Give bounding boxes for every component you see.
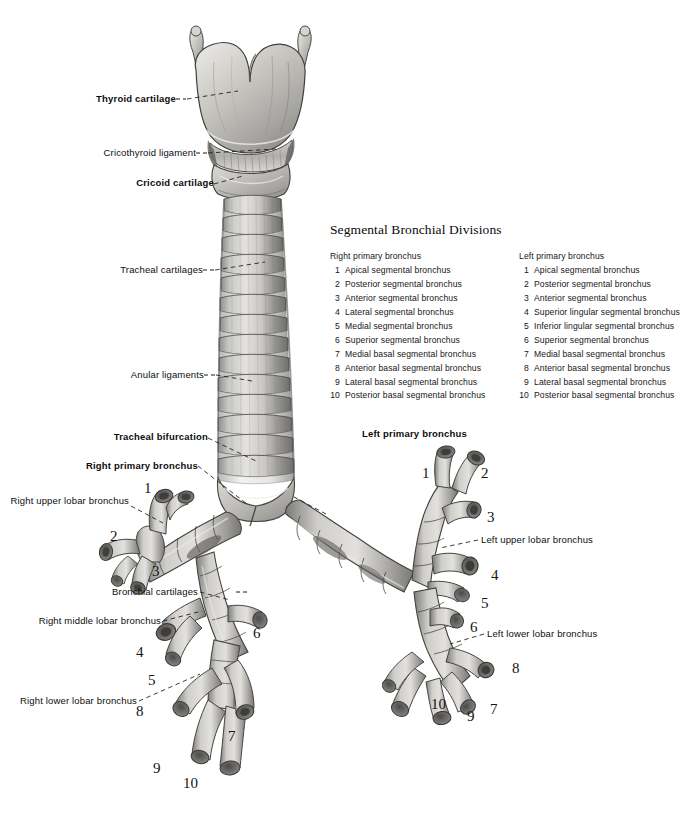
- legend-item-label: Posterior basal segmental bronchus: [534, 389, 675, 403]
- legend-item: 8Anterior basal segmental bronchus: [330, 362, 503, 376]
- legend-item-label: Anterior basal segmental bronchus: [345, 362, 481, 376]
- legend-item-index: 9: [519, 376, 534, 390]
- legend-item-label: Superior segmental bronchus: [534, 334, 649, 348]
- legend-item-label: Anterior segmental bronchus: [345, 292, 458, 306]
- numeric-callout-left: 1: [422, 466, 430, 481]
- legend-item-index: 7: [519, 348, 534, 362]
- legend-item-index: 2: [519, 278, 534, 292]
- legend-item: 10Posterior basal segmental bronchus: [330, 389, 503, 403]
- legend-list-left: 1Apical segmental bronchus2Posterior seg…: [519, 264, 692, 403]
- numeric-callout-left: 6: [470, 620, 478, 635]
- legend-item-label: Lateral basal segmental bronchus: [534, 376, 666, 390]
- segmental-bronchial-divisions-legend: Segmental Bronchial Divisions Right prim…: [330, 222, 692, 403]
- numeric-callout-right: 4: [136, 645, 144, 660]
- legend-item: 1Apical segmental bronchus: [330, 264, 503, 278]
- legend-item-label: Posterior basal segmental bronchus: [345, 389, 486, 403]
- legend-item-index: 6: [519, 334, 534, 348]
- label-bronchial-cartilages: Bronchial cartilages: [10, 587, 198, 597]
- legend-item-index: 8: [330, 362, 345, 376]
- numeric-callout-left: 9: [467, 709, 475, 724]
- legend-item: 8Anterior basal segmental bronchus: [519, 362, 692, 376]
- numeric-callout-right: 6: [253, 626, 261, 641]
- numeric-callout-right: 5: [148, 673, 156, 688]
- label-left-lower-lobar-bronchus: Left lower lobar bronchus: [487, 629, 597, 639]
- legend-item-label: Superior lingular segmental bronchus: [534, 306, 680, 320]
- legend-item-label: Inferior lingular segmental bronchus: [534, 320, 674, 334]
- numeric-callout-right: 2: [110, 529, 118, 544]
- legend-item: 2Posterior segmental bronchus: [519, 278, 692, 292]
- numeric-callout-right: 8: [136, 704, 144, 719]
- label-cricothyroid-ligament: Cricothyroid ligament: [10, 148, 196, 158]
- legend-item-label: Apical segmental bronchus: [345, 264, 451, 278]
- legend-item-index: 10: [330, 389, 345, 403]
- legend-item-index: 4: [330, 306, 345, 320]
- trachea-art: [218, 195, 294, 484]
- legend-item-label: Posterior segmental bronchus: [534, 278, 651, 292]
- legend-item-label: Anterior segmental bronchus: [534, 292, 647, 306]
- legend-item-label: Lateral segmental bronchus: [345, 306, 454, 320]
- numeric-callout-left: 2: [481, 466, 489, 481]
- legend-item: 4Superior lingular segmental bronchus: [519, 306, 692, 320]
- legend-item: 7Medial basal segmental bronchus: [330, 348, 503, 362]
- legend-item-index: 3: [330, 292, 345, 306]
- legend-item-index: 3: [519, 292, 534, 306]
- label-thyroid-cartilage: Thyroid cartilage: [10, 94, 176, 104]
- legend-column-right: Right primary bronchus 1Apical segmental…: [330, 251, 503, 403]
- legend-item: 9Lateral basal segmental bronchus: [519, 376, 692, 390]
- legend-item: 10Posterior basal segmental bronchus: [519, 389, 692, 403]
- trachea-bronchial-tree-illustration: [0, 0, 699, 815]
- legend-item-index: 6: [330, 334, 345, 348]
- label-tracheal-bifurcation: Tracheal bifurcation: [10, 432, 208, 442]
- label-right-lower-lobar-bronchus: Right lower lobar bronchus: [0, 696, 137, 706]
- label-tracheal-cartilages: Tracheal cartilages: [10, 265, 203, 275]
- legend-item-index: 5: [519, 320, 534, 334]
- anatomical-figure: Thyroid cartilage Cricothyroid ligament …: [0, 0, 699, 815]
- legend-item: 4Lateral segmental bronchus: [330, 306, 503, 320]
- legend-item-label: Lateral basal segmental bronchus: [345, 376, 477, 390]
- numeric-callout-right: 3: [152, 564, 160, 579]
- legend-item: 9Lateral basal segmental bronchus: [330, 376, 503, 390]
- numeric-callout-left: 3: [487, 510, 495, 525]
- legend-column-left: Left primary bronchus 1Apical segmental …: [519, 251, 692, 403]
- numeric-callout-right: 7: [228, 729, 236, 744]
- legend-heading-left-primary-bronchus: Left primary bronchus: [519, 251, 692, 261]
- legend-title: Segmental Bronchial Divisions: [330, 222, 692, 238]
- legend-item: 5Medial segmental bronchus: [330, 320, 503, 334]
- legend-heading-right-primary-bronchus: Right primary bronchus: [330, 251, 503, 261]
- legend-item: 7Medial basal segmental bronchus: [519, 348, 692, 362]
- legend-item-label: Anterior basal segmental bronchus: [534, 362, 670, 376]
- legend-item: 6Superior segmental bronchus: [519, 334, 692, 348]
- legend-item-label: Medial segmental bronchus: [345, 320, 453, 334]
- legend-item: 2Posterior segmental bronchus: [330, 278, 503, 292]
- legend-item: 6Superior segmental bronchus: [330, 334, 503, 348]
- legend-columns: Right primary bronchus 1Apical segmental…: [330, 251, 692, 403]
- legend-item-label: Superior segmental bronchus: [345, 334, 460, 348]
- legend-item-index: 8: [519, 362, 534, 376]
- legend-item-index: 1: [519, 264, 534, 278]
- legend-item-index: 7: [330, 348, 345, 362]
- numeric-callout-right: 10: [183, 776, 198, 791]
- label-anular-ligaments: Anular ligaments: [10, 370, 204, 380]
- label-left-primary-bronchus: Left primary bronchus: [362, 429, 467, 439]
- legend-item-label: Medial basal segmental bronchus: [534, 348, 665, 362]
- legend-item: 1Apical segmental bronchus: [519, 264, 692, 278]
- numeric-callout-right: 1: [144, 481, 152, 496]
- thyroid-cartilage-art: [190, 26, 311, 153]
- legend-item-index: 4: [519, 306, 534, 320]
- legend-item: 3Anterior segmental bronchus: [330, 292, 503, 306]
- legend-item: 5Inferior lingular segmental bronchus: [519, 320, 692, 334]
- legend-item-label: Posterior segmental bronchus: [345, 278, 462, 292]
- legend-list-right: 1Apical segmental bronchus2Posterior seg…: [330, 264, 503, 403]
- numeric-callout-left: 5: [481, 596, 489, 611]
- legend-item-index: 10: [519, 389, 534, 403]
- numeric-callout-left: 10: [431, 697, 446, 712]
- numeric-callout-left: 8: [512, 661, 520, 676]
- legend-item-index: 1: [330, 264, 345, 278]
- label-right-primary-bronchus: Right primary bronchus: [10, 461, 198, 471]
- legend-item-index: 9: [330, 376, 345, 390]
- legend-item-label: Medial basal segmental bronchus: [345, 348, 476, 362]
- label-cricoid-cartilage: Cricoid cartilage: [10, 178, 214, 188]
- label-left-upper-lobar-bronchus: Left upper lobar bronchus: [481, 535, 593, 545]
- legend-item-index: 5: [330, 320, 345, 334]
- legend-item-label: Apical segmental bronchus: [534, 264, 640, 278]
